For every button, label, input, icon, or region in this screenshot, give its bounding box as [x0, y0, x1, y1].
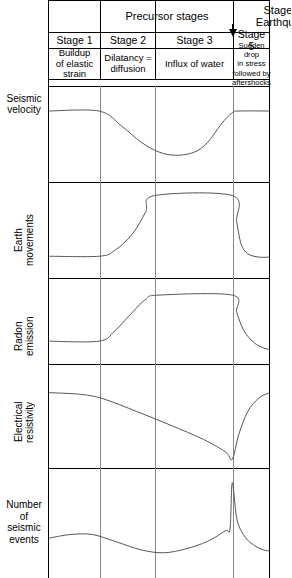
stage-description-stage5: Sudden drop in stress followed by afters…	[234, 49, 269, 79]
row-label-seismic-velocity: Seismic velocity	[0, 86, 48, 122]
figure-root: Precursor stages Stage 4: Earthquake Sta…	[0, 0, 291, 578]
curve-electrical-resistivity	[48, 393, 270, 460]
curve-earth-movements	[48, 193, 270, 257]
stage-description-stage2: Dilatancy = diffusion	[101, 49, 155, 79]
panel-seismic-events	[48, 468, 270, 578]
stage-description-stage1: Buildup of elastic strain	[49, 49, 100, 79]
stage-header-table: Precursor stages Stage 4: Earthquake Sta…	[48, 0, 270, 80]
panel-svg-earth-movements	[48, 182, 270, 278]
stage-description-stage3: Influx of water	[156, 49, 233, 79]
curve-seismic-events	[48, 483, 270, 553]
earthquake-header-line1: Stage 4:	[264, 4, 292, 16]
plot-frame-right	[269, 0, 270, 578]
row-label-seismic-events: Number of seismic events	[0, 492, 48, 552]
row-label-electrical-resistivity: Electrical resistivity	[0, 382, 48, 462]
panel-electrical-resistivity	[48, 364, 270, 468]
panel-seismic-velocity	[48, 86, 270, 182]
row-label-earth-movements: Earth movements	[0, 190, 48, 290]
stage-label-stage3: Stage 3	[156, 33, 233, 48]
panel-svg-electrical-resistivity	[48, 364, 270, 468]
panel-earth-movements	[48, 182, 270, 278]
curve-radon-emission	[48, 294, 270, 350]
stage-label-stage1: Stage 1	[49, 33, 100, 48]
stage-label-stage2: Stage 2	[101, 33, 155, 48]
precursor-stages-header: Precursor stages	[101, 0, 233, 32]
earthquake-header-line2: Earthquake	[256, 16, 291, 28]
row-label-radon-emission: Radon emission	[0, 300, 48, 372]
panel-svg-seismic-velocity	[48, 86, 270, 182]
panel-svg-radon-emission	[48, 278, 270, 364]
panel-radon-emission	[48, 278, 270, 364]
plot-frame-left	[48, 0, 49, 578]
curve-seismic-velocity	[48, 110, 270, 155]
panel-svg-seismic-events	[48, 468, 270, 578]
plot-panels	[48, 80, 270, 578]
earthquake-down-arrow-icon	[229, 24, 237, 38]
